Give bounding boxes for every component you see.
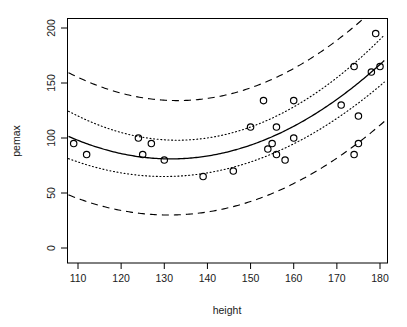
scatter-plot-svg: 110120130140150160170180 050100150200 he…	[0, 0, 407, 327]
x-tick-label: 180	[371, 272, 389, 284]
x-tick-label: 150	[242, 272, 260, 284]
x-tick-label: 120	[112, 272, 130, 284]
x-tick-label: 140	[199, 272, 217, 284]
x-tick-label: 170	[328, 272, 346, 284]
plot-canvas: 110120130140150160170180 050100150200 he…	[0, 0, 407, 327]
y-tick-label: 200	[45, 19, 57, 37]
x-tick-label: 110	[70, 272, 87, 284]
y-tick-label: 100	[45, 129, 57, 147]
y-tick-label: 50	[45, 187, 57, 199]
y-axis-title: pemax	[10, 124, 22, 156]
y-tick-label: 0	[45, 245, 57, 251]
y-tick-label: 150	[45, 74, 57, 92]
x-axis-title: height	[213, 304, 242, 316]
x-tick-label: 130	[156, 272, 174, 284]
x-tick-label: 160	[285, 272, 303, 284]
